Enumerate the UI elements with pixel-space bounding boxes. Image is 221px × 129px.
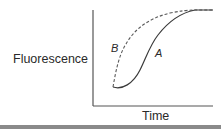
y-axis-label: Fluorescence	[13, 52, 88, 66]
series-a-curve	[113, 10, 213, 88]
series-b-label: B	[111, 42, 118, 54]
x-axis-label: Time	[142, 109, 169, 123]
series-b-curve	[113, 10, 213, 87]
series-a-label: A	[155, 47, 162, 59]
fluorescence-time-chart: Fluorescence Time B A	[0, 0, 221, 129]
bottom-border	[0, 125, 221, 129]
